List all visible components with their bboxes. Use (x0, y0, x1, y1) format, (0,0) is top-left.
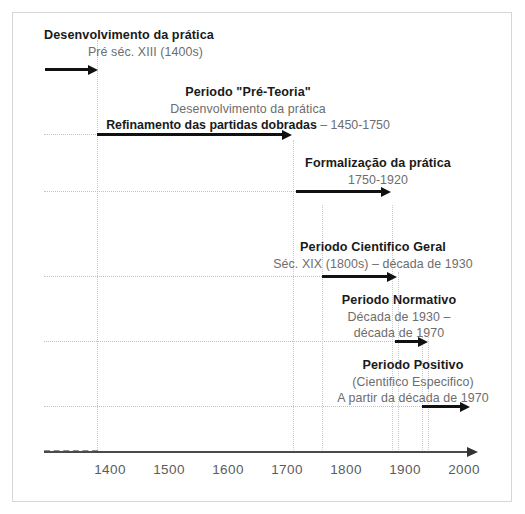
period-label-periodo-normativo: Periodo Normativo Década de 1930 – décad… (342, 292, 456, 341)
period-detail-range: – 1450-1750 (317, 118, 390, 132)
axis-tick-1400: 1400 (94, 462, 126, 477)
timeline-figure: Desenvolvimento da prática Pré séc. XIII… (0, 0, 525, 514)
period-label-periodo-positivo: Periodo Positivo (Cientifico Especifico)… (337, 357, 488, 406)
axis-tick-1900: 1900 (389, 462, 421, 477)
period-subtitle: 1750-1920 (305, 172, 451, 188)
hguide-row2 (44, 134, 98, 135)
period-arrow-periodo-positivo (422, 405, 461, 408)
period-subtitle: Pré séc. XIII (1400s) (44, 44, 214, 60)
x-axis-line (44, 451, 468, 453)
period-label-desenvolvimento-da-pratica: Desenvolvimento da prática Pré séc. XIII… (44, 27, 214, 60)
period-detail: Refinamento das partidas dobradas – 1450… (106, 117, 390, 133)
period-arrow-desenvolvimento-da-pratica (45, 68, 89, 71)
period-title: Desenvolvimento da prática (44, 27, 214, 44)
period-title: Periodo "Pré-Teoria" (106, 84, 390, 101)
period-arrow-periodo-pre-teoria (97, 133, 283, 136)
period-label-periodo-pre-teoria: Periodo "Pré-Teoria" Desenvolvimento da … (106, 84, 390, 133)
period-arrow-periodo-cientifico-geral (322, 275, 388, 278)
period-subtitle: (Cientifico Especifico) (337, 374, 488, 390)
axis-tick-1600: 1600 (212, 462, 244, 477)
period-title: Periodo Cientifico Geral (273, 239, 473, 256)
timeline-plot-area: Desenvolvimento da prática Pré séc. XIII… (0, 0, 525, 514)
period-title: Periodo Positivo (337, 357, 488, 374)
period-title: Formalização da prática (305, 155, 451, 172)
period-arrow-periodo-normativo (395, 340, 419, 343)
axis-tick-1500: 1500 (153, 462, 185, 477)
period-subtitle: Década de 1930 – (342, 309, 456, 325)
period-arrow-formalizacao-da-pratica (296, 190, 382, 193)
period-label-formalizacao-da-pratica: Formalização da prática 1750-1920 (305, 155, 451, 188)
period-subtitle: Séc. XIX (1800s) – década de 1930 (273, 256, 473, 272)
period-subtitle-line2: década de 1970 (342, 325, 456, 341)
period-title: Periodo Normativo (342, 292, 456, 309)
hguide-row3 (44, 191, 296, 192)
hguide-row4 (44, 276, 322, 277)
axis-tick-1800: 1800 (330, 462, 362, 477)
period-subtitle: Desenvolvimento da prática (106, 101, 390, 117)
axis-tick-2000: 2000 (448, 462, 480, 477)
vguide-1400 (97, 40, 98, 452)
period-label-periodo-cientifico-geral: Periodo Cientifico Geral Séc. XIX (1800s… (273, 239, 473, 272)
axis-tick-1700: 1700 (271, 462, 303, 477)
